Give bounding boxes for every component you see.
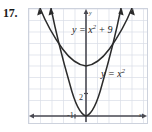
y-axis-label: y bbox=[89, 10, 92, 16]
equation-upper-prefix: y = x bbox=[72, 24, 93, 35]
equation-lower-prefix: y = x bbox=[101, 68, 122, 79]
equation-label-lower-parabola: y = x2 bbox=[101, 69, 125, 79]
coordinate-plane: y x 2 -1 y = x2 + 9 y = x2 bbox=[28, 8, 148, 124]
figure-container: 17. bbox=[0, 0, 152, 132]
equation-upper-suffix: + 9 bbox=[96, 24, 113, 35]
y-tick-label-2: 2 bbox=[79, 93, 83, 102]
equation-label-upper-parabola: y = x2 + 9 bbox=[72, 25, 113, 35]
problem-number: 17. bbox=[3, 6, 17, 21]
equation-lower-exponent: 2 bbox=[122, 67, 125, 74]
x-tick-label-negative-1: -1 bbox=[67, 111, 74, 120]
x-axis-label: x bbox=[139, 112, 142, 118]
